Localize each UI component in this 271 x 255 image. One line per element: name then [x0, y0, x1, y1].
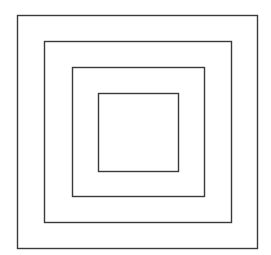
squares-group [18, 16, 258, 249]
nested-squares-diagram [0, 0, 271, 255]
inner-square [99, 94, 179, 172]
third-square [73, 68, 205, 197]
outer-square [18, 16, 258, 249]
